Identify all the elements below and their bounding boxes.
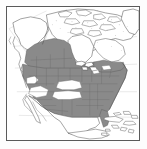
map-frame <box>6 6 140 141</box>
range-gap-northeast <box>102 65 112 70</box>
range-map-figure <box>0 0 147 149</box>
range-gap-southern-plains <box>52 91 82 100</box>
north-america-range-map <box>7 7 139 140</box>
